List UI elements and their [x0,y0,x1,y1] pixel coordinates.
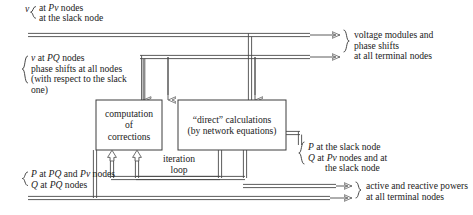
brace-mid-right [299,142,304,164]
output-bottom-right-label: active and reactive powers at all termin… [366,181,468,202]
input-top-left-label: at Pv nodes at the slack node [39,3,103,24]
brace-bottom-right [356,182,361,198]
output-mid-right-label: P at the slack node Q at Pv nodes and at… [308,142,387,174]
output-top-right-label: voltage modules and phase shifts at all … [354,30,433,62]
input-top-left-var: v [25,4,29,15]
mid-right-output-channel [286,131,302,145]
input-mid-left-label: v at PQ nodes phase shifts at all nodes … [31,53,127,96]
top-input-channel [28,33,310,36]
brace-top-right [344,30,349,52]
brace-bottom-left [22,172,27,186]
iteration-loop-label: iteration loop [143,152,215,176]
loop-arrowheads-up [108,150,142,161]
corrections-box-label: computation of corrections [96,100,162,150]
bottom-right-upper-line [243,184,336,187]
input-bottom-left-label: P at PQ and Pv nodes Q at PQ nodes [31,169,115,190]
direct-up-trunk [248,33,251,100]
direct-box-label: “direct” calculations (by network equati… [178,100,286,150]
second-input-channel [140,55,310,100]
brace-mid-left [22,56,27,83]
brace-top-left [31,7,36,19]
